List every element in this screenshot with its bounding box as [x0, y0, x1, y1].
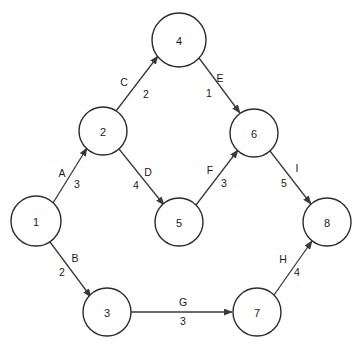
node-8-label: 8 — [324, 217, 330, 229]
edge-e-name-label: E — [216, 72, 223, 84]
edge-g-name-label: G — [179, 296, 187, 308]
edges-layer — [50, 56, 312, 312]
node-7[interactable]: 7 — [233, 288, 281, 336]
node-6[interactable]: 6 — [230, 109, 278, 157]
node-4[interactable]: 4 — [152, 13, 206, 67]
edge-h-line — [274, 241, 312, 295]
edge-b-name-label: B — [71, 252, 78, 264]
edge-b-line — [50, 242, 91, 297]
edge-d-name-label: D — [144, 166, 152, 178]
node-1-label: 1 — [33, 216, 39, 228]
node-7-label: 7 — [254, 307, 260, 319]
edge-h-weight-label: 4 — [294, 266, 300, 278]
edge-f-name-label: F — [207, 164, 213, 176]
edge-i-line — [270, 151, 311, 204]
network-diagram-canvas: 12345678 A3B2C2D4E1F3G3H4I5 — [0, 0, 363, 351]
node-8[interactable]: 8 — [303, 198, 351, 246]
edge-i-name-label: I — [296, 162, 299, 174]
edge-d-weight-label: 4 — [133, 179, 139, 191]
node-1[interactable]: 1 — [11, 196, 61, 246]
edge-i-weight-label: 5 — [281, 177, 287, 189]
graph-svg: 12345678 A3B2C2D4E1F3G3H4I5 — [0, 0, 363, 351]
edge-a-name-label: A — [58, 167, 65, 179]
node-3[interactable]: 3 — [83, 288, 131, 336]
node-6-label: 6 — [251, 128, 257, 140]
node-2-label: 2 — [100, 126, 106, 138]
node-5[interactable]: 5 — [155, 198, 203, 246]
edge-g-weight-label: 3 — [180, 315, 186, 327]
edge-b-weight-label: 2 — [59, 266, 65, 278]
edge-e-weight-label: 1 — [206, 87, 212, 99]
edge-e-line — [199, 58, 240, 113]
edge-a-weight-label: 3 — [74, 178, 80, 190]
edge-c-name-label: C — [120, 76, 128, 88]
edge-f-weight-label: 3 — [221, 177, 227, 189]
edge-h-name-label: H — [279, 253, 287, 265]
node-5-label: 5 — [176, 217, 182, 229]
node-2[interactable]: 2 — [79, 107, 127, 155]
node-3-label: 3 — [104, 307, 110, 319]
edge-c-weight-label: 2 — [143, 88, 149, 100]
edge-d-line — [119, 149, 164, 205]
node-4-label: 4 — [176, 35, 182, 47]
edge-f-line — [196, 150, 238, 205]
